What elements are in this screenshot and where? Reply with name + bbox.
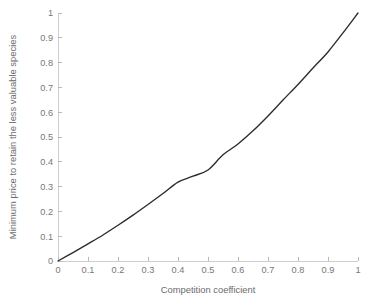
line-chart: 00.10.20.30.40.50.60.70.80.91 00.10.20.3… [0,0,369,304]
x-tick-label: 0.6 [232,265,245,275]
x-axis-ticks [58,257,358,261]
y-tick-label: 0 [48,256,53,266]
x-tick-label: 0 [55,265,60,275]
y-tick-label: 0.4 [40,157,53,167]
y-axis-title: Minimum price to retain the less valuabl… [7,35,18,240]
y-tick-label: 0.2 [40,207,53,217]
x-tick-label: 0.8 [292,265,305,275]
axes-group [58,13,358,261]
x-tick-label: 0.2 [112,265,125,275]
x-axis-tick-labels: 00.10.20.30.40.50.60.70.80.91 [55,265,360,275]
y-tick-label: 0.1 [40,232,53,242]
y-tick-label: 0.5 [40,132,53,142]
y-tick-label: 0.7 [40,83,53,93]
data-curve-minimum-price [58,13,358,261]
x-tick-label: 0.3 [142,265,155,275]
x-axis-title: Competition coefficient [161,284,256,295]
y-axis-ticks [58,13,62,261]
x-tick-label: 0.9 [322,265,335,275]
x-tick-label: 0.4 [172,265,185,275]
y-tick-label: 0.3 [40,182,53,192]
chart-figure: 00.10.20.30.40.50.60.70.80.91 00.10.20.3… [0,0,369,304]
y-tick-label: 0.6 [40,108,53,118]
series-group [58,13,358,261]
x-tick-label: 0.1 [82,265,95,275]
x-tick-label: 1 [355,265,360,275]
y-tick-label: 0.8 [40,58,53,68]
y-tick-label: 0.9 [40,33,53,43]
y-tick-label: 1 [48,8,53,18]
y-axis-tick-labels: 00.10.20.30.40.50.60.70.80.91 [40,8,53,266]
x-tick-label: 0.5 [202,265,215,275]
x-tick-label: 0.7 [262,265,275,275]
